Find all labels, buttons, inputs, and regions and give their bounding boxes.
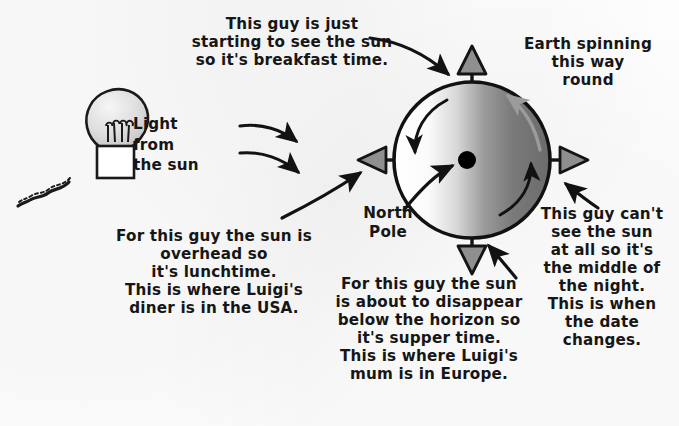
callout-arrow-supper — [489, 246, 516, 278]
north-pole-dot — [458, 151, 476, 169]
marker-dawn-left-icon — [358, 147, 396, 173]
label-lunchtime: For this guy the sun is overhead so it's… — [96, 228, 332, 318]
label-earth-spinning: Earth spinning this way round — [508, 36, 668, 90]
light-bulb-icon — [18, 89, 148, 206]
sun-ray-upper-arrow — [240, 125, 296, 141]
label-supper: For this guy the sun is about to disappe… — [322, 276, 536, 384]
diagram-canvas: This guy is just starting to see the sun… — [0, 0, 679, 426]
label-light-from-sun: Light from the sun — [133, 114, 229, 176]
marker-dusk-right-icon — [548, 147, 588, 173]
sun-ray-lower-arrow — [240, 153, 298, 172]
label-night: This guy can't see the sun at all so it'… — [528, 206, 676, 350]
marker-north-top-icon — [458, 46, 486, 84]
label-north-pole: North Pole — [345, 204, 431, 242]
marker-noon-down-icon — [458, 236, 486, 274]
label-breakfast: This guy is just starting to see the sun… — [168, 16, 416, 70]
